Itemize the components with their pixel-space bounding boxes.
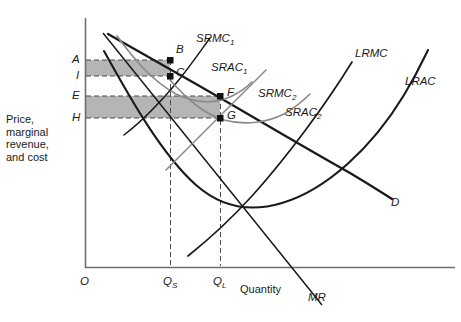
x-axis-title: Quantity	[240, 284, 281, 295]
y-tick-label-E: E	[72, 90, 80, 102]
curve-label-srmc2-base: SRMC	[258, 87, 292, 99]
x-tick-label-QL: QL	[213, 276, 226, 290]
curve-label-srmc1: SRMC1	[196, 33, 234, 47]
y-tick-label-H: H	[72, 112, 80, 124]
point-marker-C	[167, 73, 174, 80]
point-label-B: B	[176, 44, 184, 56]
curve-label-srac2: SRAC2	[285, 107, 321, 121]
y-axis-caption: Price, marginal revenue, and cost	[6, 113, 68, 163]
curve-label-srmc2: SRMC2	[258, 88, 296, 102]
curve-label-srac2-base: SRAC	[285, 106, 317, 118]
curve-label-srac2-subscript: 2	[317, 112, 321, 121]
point-label-F: F	[227, 87, 234, 99]
x-tick-QL-subscript: L	[222, 281, 226, 290]
y-tick-label-I: I	[76, 70, 79, 82]
point-marker-G	[217, 115, 224, 122]
point-marker-F	[217, 93, 224, 100]
curve-label-srmc1-base: SRMC	[196, 32, 230, 44]
srmc1-curve	[124, 38, 210, 135]
curve-label-srmc2-subscript: 2	[292, 93, 296, 102]
curve-label-mr: MR	[308, 292, 326, 304]
srmc2-curve	[166, 70, 266, 170]
y-tick-label-A: A	[72, 54, 80, 66]
point-label-C: C	[176, 67, 184, 79]
curve-label-srac1-subscript: 1	[243, 67, 247, 76]
y-axis-caption-line-2: marginal	[6, 126, 68, 139]
curve-label-lrmc: LRMC	[355, 48, 388, 60]
point-label-G: G	[227, 110, 236, 122]
y-axis-caption-line-1: Price,	[6, 113, 68, 126]
curve-label-demand: D	[391, 197, 399, 209]
curve-label-lrac: LRAC	[405, 76, 436, 88]
y-axis-caption-line-4: and cost	[6, 151, 68, 164]
origin-label: O	[80, 276, 89, 288]
y-axis-caption-line-3: revenue,	[6, 138, 68, 151]
curve-label-srmc1-subscript: 1	[230, 38, 234, 47]
x-tick-QS-base: Q	[163, 275, 172, 287]
x-tick-label-QS: QS	[163, 276, 177, 290]
diagram-canvas	[0, 0, 461, 322]
x-tick-QS-subscript: S	[172, 281, 177, 290]
curve-label-srac1-base: SRAC	[211, 61, 243, 73]
point-marker-B	[167, 57, 174, 64]
x-tick-QL-base: Q	[213, 275, 222, 287]
curve-label-srac1: SRAC1	[211, 62, 247, 76]
economics-diagram: A I E H Price, marginal revenue, and cos…	[0, 0, 461, 322]
